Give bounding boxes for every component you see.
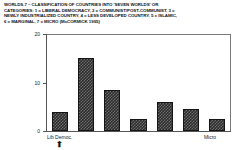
figure-caption: WORLDS.7 – CLASSIFICATION OF COUNTRIES I… bbox=[4, 2, 235, 24]
bar-7[interactable] bbox=[209, 119, 225, 131]
y-tick-label-20: 20 bbox=[14, 31, 40, 37]
plot-frame-right bbox=[230, 34, 231, 132]
y-tick-label-0: 0 bbox=[14, 128, 40, 134]
bar-4[interactable] bbox=[130, 119, 146, 131]
y-tick-10 bbox=[43, 83, 46, 84]
bar-series bbox=[47, 34, 230, 131]
bar-1[interactable] bbox=[52, 112, 68, 131]
x-label-7: Micro bbox=[204, 134, 216, 140]
y-tick-0 bbox=[43, 131, 46, 132]
bar-5[interactable] bbox=[157, 102, 173, 131]
y-tick-20 bbox=[43, 34, 46, 35]
bar-6[interactable] bbox=[183, 109, 199, 131]
bar-2[interactable] bbox=[78, 58, 94, 131]
up-arrow-marker: ⬆ bbox=[56, 141, 63, 149]
y-tick-label-10: 10 bbox=[14, 80, 40, 86]
x-axis-line bbox=[46, 131, 231, 132]
bar-3[interactable] bbox=[104, 90, 120, 131]
bar-chart: 01020 Lib Democ.Micro ⬆ bbox=[0, 30, 239, 150]
caption-line-4: 6 = MARGINAL, 7 = MICRO (McCORMICK 1995) bbox=[4, 19, 235, 25]
